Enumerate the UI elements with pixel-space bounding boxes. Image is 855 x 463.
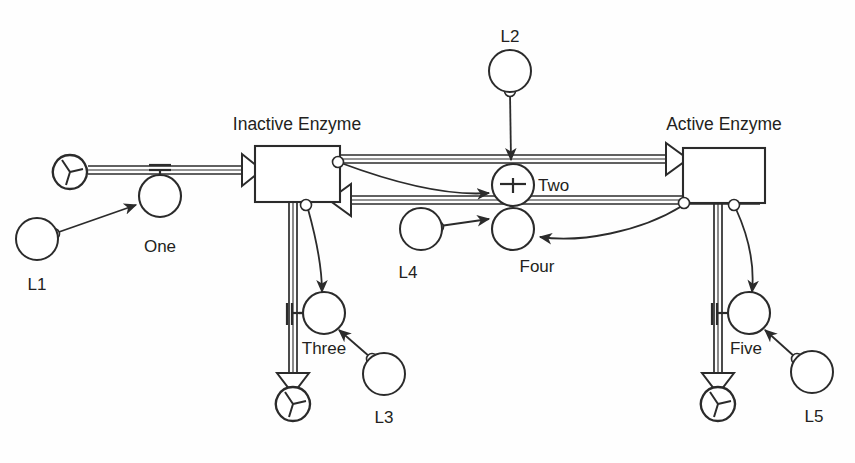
flow-outflow-five — [702, 203, 734, 394]
cloud-source-left — [53, 155, 87, 189]
valve-label-three: Three — [302, 339, 346, 358]
conn-active-five — [729, 200, 753, 293]
stock-inactive-enzyme[interactable] — [255, 146, 340, 202]
aux-label-l4: L4 — [399, 263, 418, 282]
stock-flow-diagram: Inactive Enzyme Active Enzyme — [0, 0, 855, 463]
aux-l1[interactable] — [16, 218, 58, 260]
conn-l2-two — [505, 86, 516, 161]
flow-outflow-three — [277, 203, 309, 394]
cloud-sink-active — [701, 387, 735, 421]
connector-origin-dot-active-bottom — [729, 200, 740, 211]
stock-label-active-enzyme: Active Enzyme — [666, 114, 782, 134]
valve-five[interactable] — [712, 292, 770, 334]
conn-inactive-three — [301, 200, 323, 293]
connector-origin-dot-inactive-bottom — [301, 200, 312, 211]
aux-l2[interactable] — [489, 50, 531, 92]
valve-label-two: Two — [538, 176, 569, 195]
valve-three[interactable] — [287, 292, 345, 334]
valve-label-four: Four — [520, 257, 555, 276]
valve-label-one: One — [144, 237, 176, 256]
aux-l3[interactable] — [363, 353, 405, 395]
aux-l4[interactable] — [400, 208, 442, 250]
valve-four[interactable] — [492, 208, 534, 250]
connector-origin-dot-active-bottom-left — [679, 198, 690, 209]
aux-label-l2: L2 — [501, 27, 520, 46]
conn-l1-one — [49, 205, 137, 240]
valve-two[interactable] — [492, 164, 534, 206]
aux-label-l3: L3 — [375, 408, 394, 427]
aux-label-l5: L5 — [805, 407, 824, 426]
stock-active-enzyme[interactable] — [683, 148, 765, 203]
valve-one[interactable] — [139, 165, 181, 217]
aux-label-l1: L1 — [28, 275, 47, 294]
cloud-sink-inactive — [276, 387, 310, 421]
aux-l5[interactable] — [791, 351, 833, 393]
conn-inactive-two — [333, 157, 490, 194]
valve-label-five: Five — [730, 339, 762, 358]
connector-origin-dot-inactive-top — [333, 157, 344, 168]
stock-label-inactive-enzyme: Inactive Enzyme — [233, 114, 361, 134]
diagram-canvas: Inactive Enzyme Active Enzyme — [0, 0, 855, 463]
